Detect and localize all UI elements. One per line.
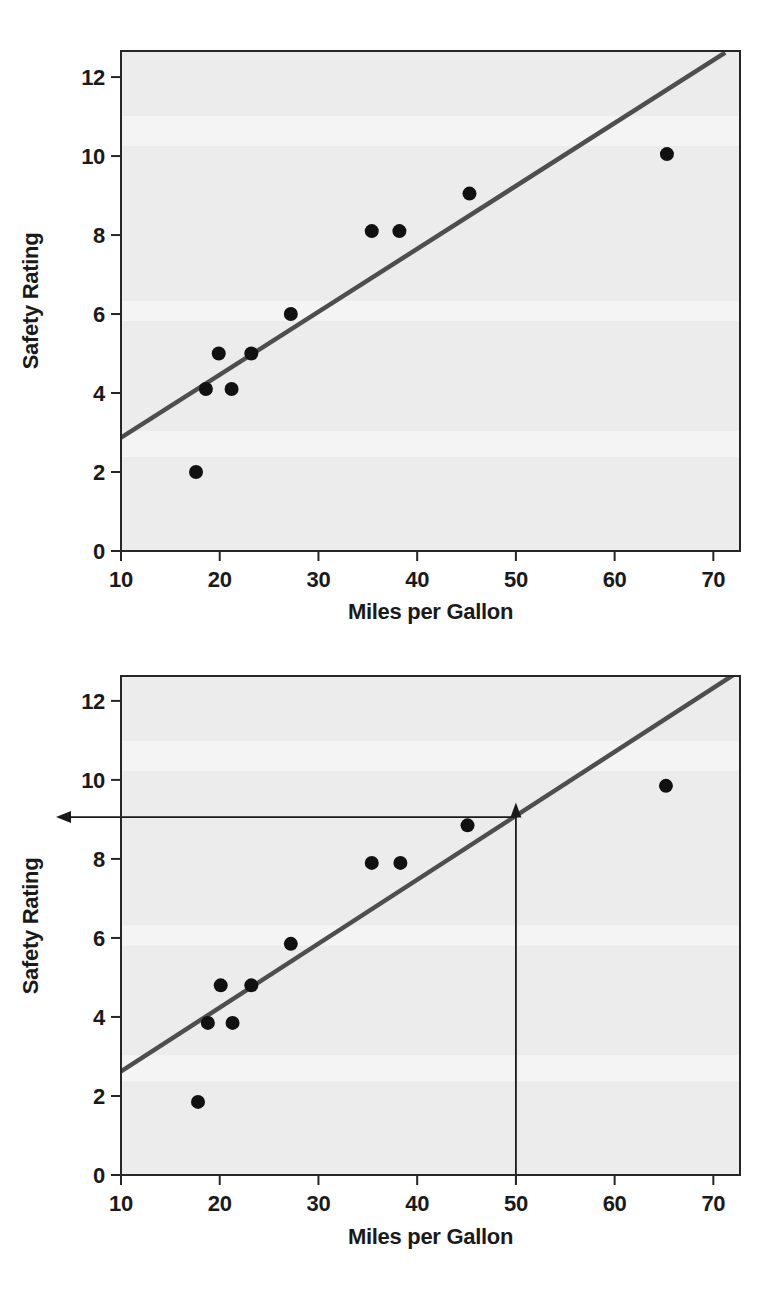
y-tick-label: 12 <box>81 65 105 90</box>
y-tick-label: 0 <box>93 1163 105 1188</box>
y-tick-label: 12 <box>81 689 105 714</box>
y-axis-title-bottom: Safety Rating <box>18 858 44 995</box>
y-tick-label: 8 <box>93 847 105 872</box>
data-point <box>392 224 406 238</box>
data-point <box>199 382 213 396</box>
scan-band <box>122 741 739 771</box>
x-tick-label: 50 <box>504 567 528 592</box>
data-point <box>393 856 407 870</box>
data-point <box>461 818 475 832</box>
data-point <box>201 1016 215 1030</box>
data-point <box>225 382 239 396</box>
x-tick-label: 70 <box>701 567 725 592</box>
x-tick-label: 30 <box>307 1191 331 1216</box>
y-tick-label: 6 <box>93 302 105 327</box>
scatter-plots-canvas: 1020304050607002468101210203040506070024… <box>0 0 778 1300</box>
x-tick-label: 50 <box>504 1191 528 1216</box>
x-tick-label: 20 <box>208 1191 232 1216</box>
y-axis-title-top: Safety Rating <box>18 233 44 370</box>
scan-band <box>122 431 739 457</box>
y-tick-label: 6 <box>93 926 105 951</box>
x-tick-label: 60 <box>603 567 627 592</box>
x-tick-label: 40 <box>405 567 429 592</box>
x-axis-title-bottom: Miles per Gallon <box>121 1224 740 1250</box>
y-tick-label: 2 <box>93 460 105 485</box>
scatter-chart-top: 10203040506070024681012 <box>81 51 740 592</box>
x-axis-title-top: Miles per Gallon <box>121 599 740 625</box>
scan-band <box>122 301 739 321</box>
x-tick-label: 30 <box>307 567 331 592</box>
scatter-chart-bottom: 10203040506070024681012 <box>56 673 740 1216</box>
data-point <box>244 347 258 361</box>
scan-band <box>122 926 739 946</box>
data-point <box>226 1016 240 1030</box>
data-point <box>365 856 379 870</box>
data-point <box>462 187 476 201</box>
y-tick-label: 10 <box>81 144 105 169</box>
x-tick-label: 10 <box>109 567 133 592</box>
data-point <box>365 224 379 238</box>
scan-band <box>122 1055 739 1081</box>
x-tick-label: 20 <box>208 567 232 592</box>
data-point <box>660 147 674 161</box>
arrowhead-left-icon <box>56 811 71 823</box>
x-tick-label: 60 <box>603 1191 627 1216</box>
data-point <box>189 465 203 479</box>
x-tick-label: 10 <box>109 1191 133 1216</box>
data-point <box>284 937 298 951</box>
data-point <box>212 347 226 361</box>
y-tick-label: 10 <box>81 768 105 793</box>
textbook-figure: 1020304050607002468101210203040506070024… <box>0 0 778 1300</box>
x-tick-label: 40 <box>405 1191 429 1216</box>
scan-band <box>122 116 739 146</box>
y-tick-label: 0 <box>93 539 105 564</box>
y-tick-label: 4 <box>93 381 106 406</box>
y-tick-label: 8 <box>93 223 105 248</box>
data-point <box>659 779 673 793</box>
y-tick-label: 2 <box>93 1084 105 1109</box>
data-point <box>244 978 258 992</box>
y-tick-label: 4 <box>93 1005 106 1030</box>
data-point <box>284 307 298 321</box>
data-point <box>191 1095 205 1109</box>
x-tick-label: 70 <box>701 1191 725 1216</box>
data-point <box>214 978 228 992</box>
